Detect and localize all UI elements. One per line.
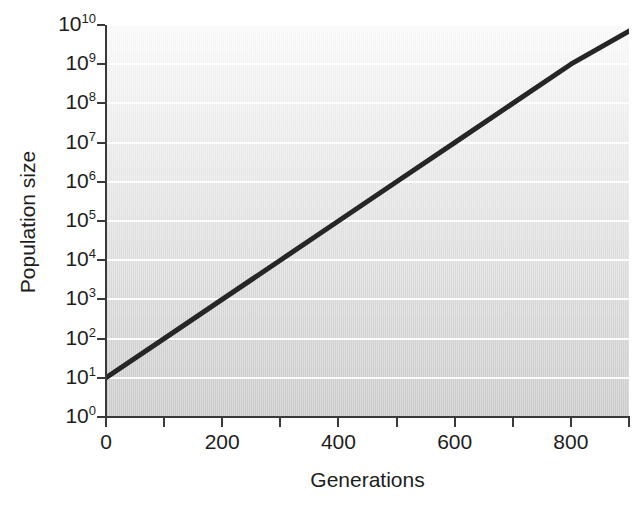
- x-axis-title: Generations: [106, 468, 629, 492]
- y-tick-exponent: 5: [89, 207, 96, 222]
- y-axis-tick-label: 1010: [22, 13, 96, 34]
- x-axis-tick-minor: [628, 418, 630, 427]
- x-axis-tick-major: [221, 418, 223, 427]
- y-tick-exponent: 0: [89, 403, 96, 418]
- y-tick-exponent: 4: [89, 246, 96, 261]
- y-tick-mantissa: 10: [65, 90, 88, 113]
- y-axis-tick: [97, 259, 105, 261]
- x-axis-tick-label: 200: [187, 430, 257, 454]
- x-axis-tick-major: [105, 418, 107, 427]
- chart-figure: 1001011021031041051061071081091010 02004…: [0, 0, 638, 510]
- y-axis-line: [105, 25, 107, 418]
- x-axis-tick-minor: [163, 418, 165, 427]
- x-axis-tick-label: 400: [303, 430, 373, 454]
- x-axis-tick-label: 800: [536, 430, 606, 454]
- y-axis-tick: [97, 63, 105, 65]
- x-axis-tick-label: 0: [71, 430, 141, 454]
- y-tick-mantissa: 10: [65, 286, 88, 309]
- y-tick-mantissa: 10: [65, 247, 88, 270]
- y-axis-tick: [97, 220, 105, 222]
- y-tick-mantissa: 10: [58, 12, 81, 35]
- y-tick-exponent: 9: [89, 50, 96, 65]
- series-layer: [106, 25, 629, 417]
- y-tick-mantissa: 10: [65, 169, 88, 192]
- x-axis-tick-minor: [279, 418, 281, 427]
- y-axis-tick: [97, 102, 105, 104]
- y-axis-tick-label: 101: [22, 366, 96, 387]
- y-tick-exponent: 2: [89, 325, 96, 340]
- x-axis-tick-major: [454, 418, 456, 427]
- y-tick-exponent: 10: [82, 11, 96, 26]
- y-axis-tick: [97, 338, 105, 340]
- x-axis-tick-minor: [396, 418, 398, 427]
- y-axis-title: Population size: [17, 107, 39, 337]
- x-axis-tick-major: [337, 418, 339, 427]
- y-tick-exponent: 7: [89, 129, 96, 144]
- y-axis-tick: [97, 377, 105, 379]
- x-axis-tick-minor: [512, 418, 514, 427]
- series-line-population-size: [106, 31, 629, 378]
- y-tick-mantissa: 10: [65, 130, 88, 153]
- y-tick-exponent: 6: [89, 168, 96, 183]
- y-axis-tick: [97, 142, 105, 144]
- y-tick-mantissa: 10: [65, 365, 88, 388]
- y-axis-tick: [97, 416, 105, 418]
- plot-area: [106, 25, 629, 417]
- y-axis-tick: [97, 181, 105, 183]
- y-tick-exponent: 1: [89, 364, 96, 379]
- y-axis-tick-label: 109: [22, 52, 96, 73]
- y-tick-mantissa: 10: [65, 326, 88, 349]
- x-axis-line: [105, 416, 630, 418]
- y-tick-mantissa: 10: [65, 51, 88, 74]
- y-axis-tick: [97, 298, 105, 300]
- y-tick-mantissa: 10: [65, 404, 88, 427]
- x-axis-tick-major: [570, 418, 572, 427]
- y-tick-exponent: 8: [89, 89, 96, 104]
- y-axis-tick: [97, 24, 105, 26]
- y-tick-mantissa: 10: [65, 208, 88, 231]
- y-axis-tick-label: 100: [22, 405, 96, 426]
- y-tick-exponent: 3: [89, 285, 96, 300]
- x-axis-tick-label: 600: [420, 430, 490, 454]
